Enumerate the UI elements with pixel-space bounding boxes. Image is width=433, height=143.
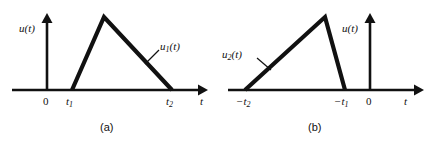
figure-container: u(t) t 0 t1 t2 u1(t) (a) u(t) t −t2 −t1 … xyxy=(0,0,433,143)
panel-b-time-axis-label: t xyxy=(404,96,407,107)
panel-b-tick-minus-t1-subscript: 1 xyxy=(344,100,348,109)
panel-b-signal-curve xyxy=(245,17,345,90)
panel-b-tick-minus-t2-subscript: 2 xyxy=(246,100,250,109)
panel-a-time-axis-label: t xyxy=(200,96,203,107)
panel-a-amplitude-axis-arrowhead xyxy=(42,13,53,23)
panel-b-tick-label-minus-t1: −t1 xyxy=(334,96,348,109)
panel-b-signal-label-leader xyxy=(257,58,271,70)
panel-b-tick-label-origin: 0 xyxy=(366,96,372,107)
panel-a-time-axis-arrowhead xyxy=(198,85,208,96)
panel-b-signal-label-tail: (t) xyxy=(232,48,242,60)
panel-a-signal-curve xyxy=(72,17,172,90)
panel-a-tick-label-t2: t2 xyxy=(166,96,173,109)
panel-a-amplitude-axis-label: u(t) xyxy=(19,23,35,34)
panel-b-tick-label-minus-t2: −t2 xyxy=(236,96,250,109)
figure-vector-canvas xyxy=(0,0,433,143)
panel-a-signal-label: u1(t) xyxy=(160,41,180,54)
panel-a-tick-label-t1: t1 xyxy=(66,96,73,109)
panel-b-signal-label: u2(t) xyxy=(222,49,242,62)
panel-a-caption: (a) xyxy=(100,122,113,133)
panel-a-graphics xyxy=(12,13,208,96)
panel-a-tick-label-origin: 0 xyxy=(43,96,49,107)
panel-b-time-axis-arrowhead xyxy=(414,85,424,96)
panel-b-tick-minus-t2-base: −t xyxy=(236,95,246,107)
panel-b-tick-minus-t1-base: −t xyxy=(334,95,344,107)
panel-b-graphics xyxy=(228,13,424,96)
panel-a-tick-t2-subscript: 2 xyxy=(169,100,173,109)
panel-b-amplitude-axis-label: u(t) xyxy=(342,23,358,34)
panel-a-tick-t1-subscript: 1 xyxy=(69,100,73,109)
panel-b-caption: (b) xyxy=(308,122,321,133)
panel-b-amplitude-axis-arrowhead xyxy=(365,13,376,23)
panel-a-signal-label-leader xyxy=(145,50,159,64)
panel-a-signal-label-tail: (t) xyxy=(170,40,180,52)
